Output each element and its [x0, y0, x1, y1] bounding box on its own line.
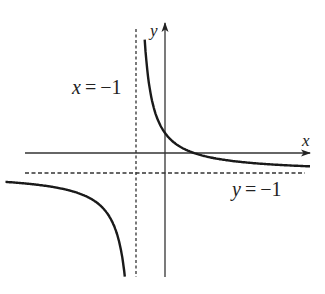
curve-left-branch [6, 182, 125, 277]
vertical-asymptote-label: x=−1 [71, 76, 121, 98]
curve-right-branch [145, 40, 310, 167]
horizontal-asymptote-label: y=−1 [230, 178, 281, 201]
graph: y x x=−1 y=−1 [0, 0, 325, 294]
x-axis-label: x [301, 131, 310, 150]
y-axis-label: y [148, 21, 158, 40]
